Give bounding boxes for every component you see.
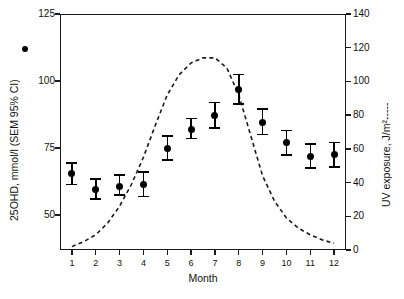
error-bar-cap-upper (162, 135, 173, 137)
x-axis-tick-mark (190, 250, 191, 255)
y-axis-right-tick-label: 80 (353, 110, 364, 120)
x-axis-tick-label: 3 (108, 258, 132, 268)
x-axis-tick-mark (286, 250, 287, 255)
data-point-25ohd (331, 151, 338, 158)
error-bar-cap-upper (90, 178, 101, 180)
legend-dashed-line-glyph: ----- (380, 103, 392, 120)
y-axis-right-tick-mark (346, 13, 351, 14)
y-axis-right-tick-mark (346, 216, 351, 217)
y-axis-right-title: UV exposure, J/m²----- (380, 70, 396, 240)
x-axis-title: Month (60, 272, 346, 284)
x-axis-tick-label: 9 (251, 258, 275, 268)
error-bar-cap-upper (257, 108, 268, 110)
x-axis-tick-mark (214, 250, 215, 255)
y-axis-right-tick-mark (346, 114, 351, 115)
x-axis-tick-mark (95, 250, 96, 255)
y-axis-right-title-text: UV exposure, J/m² (380, 120, 392, 207)
uv-exposure-dashed-curve (60, 14, 346, 250)
x-axis-tick-label: 7 (203, 258, 227, 268)
y-axis-right-tick-mark (346, 81, 351, 82)
error-bar-cap-lower (281, 154, 292, 156)
y-axis-right-tick-label: 60 (353, 144, 364, 154)
y-axis-left-tick-mark (55, 13, 60, 14)
error-bar-cap-lower (162, 159, 173, 161)
error-bar-cap-upper (66, 162, 77, 164)
error-bar-cap-upper (186, 118, 197, 120)
x-axis-tick-label: 5 (155, 258, 179, 268)
error-bar-cap-upper (114, 174, 125, 176)
chart-figure: 25OHD, mmol/l (SEM 95% CI) UV exposure, … (0, 0, 404, 299)
y-axis-left-tick-mark (55, 214, 60, 215)
x-axis-tick-mark (71, 250, 72, 255)
error-bar-cap-upper (329, 142, 340, 144)
x-axis-tick-mark (167, 250, 168, 255)
y-axis-left-tick-mark (55, 80, 60, 81)
error-bar-cap-lower (66, 184, 77, 186)
x-axis-tick-mark (333, 250, 334, 255)
error-bar-cap-lower (257, 134, 268, 136)
y-axis-left-tick-label: 100 (38, 76, 55, 86)
error-bar-cap-lower (305, 167, 316, 169)
x-axis-tick-label: 4 (131, 258, 155, 268)
data-point-25ohd (235, 86, 242, 93)
x-axis-tick-mark (310, 250, 311, 255)
error-bar-cap-lower (209, 127, 220, 129)
x-axis-tick-label: 8 (227, 258, 251, 268)
y-axis-right-tick-label: 120 (353, 43, 370, 53)
error-bar-cap-upper (138, 171, 149, 173)
data-point-25ohd (140, 181, 147, 188)
error-bar-cap-upper (209, 102, 220, 104)
error-bar-cap-lower (186, 138, 197, 140)
error-bar-cap-lower (233, 103, 244, 105)
y-axis-right-tick-label: 20 (353, 211, 364, 221)
y-axis-right-tick-label: 100 (353, 76, 370, 86)
error-bar-cap-lower (90, 198, 101, 200)
error-bar-cap-upper (233, 74, 244, 76)
data-point-25ohd (164, 145, 171, 152)
x-axis-tick-label: 2 (84, 258, 108, 268)
y-axis-left-tick-label: 50 (44, 210, 55, 220)
error-bar-cap-upper (281, 130, 292, 132)
x-axis-tick-mark (238, 250, 239, 255)
x-axis-tick-label: 6 (179, 258, 203, 268)
data-point-25ohd (188, 126, 195, 133)
y-axis-right-tick-mark (346, 148, 351, 149)
error-bar-cap-lower (329, 166, 340, 168)
x-axis-tick-mark (262, 250, 263, 255)
x-axis-tick-label: 11 (298, 258, 322, 268)
y-axis-right-tick-label: 40 (353, 178, 364, 188)
error-bar-cap-lower (138, 196, 149, 198)
x-axis-tick-mark (119, 250, 120, 255)
y-axis-right-tick-label: 140 (353, 9, 370, 19)
y-axis-right-tick-mark (346, 249, 351, 250)
y-axis-right-tick-mark (346, 182, 351, 183)
x-axis-tick-label: 1 (60, 258, 84, 268)
data-point-25ohd (307, 153, 314, 160)
y-axis-right-tick-label: 0 (353, 245, 359, 255)
x-axis-tick-label: 10 (274, 258, 298, 268)
error-bar-cap-lower (114, 194, 125, 196)
y-axis-left-tick-label: 125 (38, 9, 55, 19)
x-axis-tick-mark (143, 250, 144, 255)
y-axis-right-tick-mark (346, 47, 351, 48)
y-axis-left-tick-mark (55, 147, 60, 148)
error-bar-cap-upper (305, 143, 316, 145)
y-axis-left-tick-label: 75 (44, 143, 55, 153)
y-axis-left-title: 25OHD, mmol/l (SEM 95% CI) (8, 50, 24, 250)
x-axis-tick-label: 12 (322, 258, 346, 268)
